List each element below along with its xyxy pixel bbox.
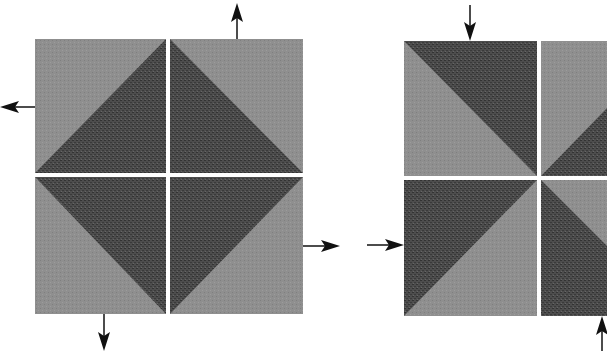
arrow-up-icon: [596, 316, 607, 351]
hst-unit-top-left: [35, 39, 166, 173]
hst-unit-bottom-left: [35, 177, 166, 314]
arrow-right-icon: [367, 239, 404, 251]
arrow-left-icon: [0, 101, 35, 113]
arrow-right-icon: [303, 240, 340, 252]
hst-unit-top-left: [404, 41, 537, 176]
hst-unit-top-right: [541, 41, 607, 176]
hst-unit-bottom-right: [170, 177, 303, 314]
quilt-diagram: [0, 0, 607, 363]
arrow-down-icon: [464, 5, 476, 41]
arrow-down-icon: [98, 314, 110, 351]
arrow-up-icon: [231, 3, 243, 39]
hst-unit-bottom-right: [541, 180, 607, 316]
right-block: [404, 41, 607, 316]
hst-unit-bottom-left: [404, 180, 537, 316]
left-block: [35, 39, 303, 314]
hst-unit-top-right: [170, 39, 303, 173]
